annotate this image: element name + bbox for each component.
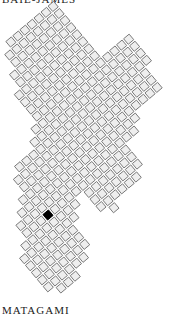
map-tile[interactable] xyxy=(146,75,156,85)
map-tile[interactable] xyxy=(48,1,58,11)
map-tile[interactable] xyxy=(90,123,100,133)
map-tile[interactable] xyxy=(43,138,53,148)
map-tile[interactable] xyxy=(75,147,85,157)
map-tile[interactable] xyxy=(51,47,61,57)
map-tile[interactable] xyxy=(39,33,49,43)
map-tile[interactable] xyxy=(65,107,75,117)
map-tile[interactable] xyxy=(98,176,108,186)
map-tile[interactable] xyxy=(13,175,23,185)
map-tile[interactable] xyxy=(30,209,40,219)
map-tile[interactable] xyxy=(111,105,121,115)
map-tile[interactable] xyxy=(12,44,22,54)
map-tile[interactable] xyxy=(50,132,60,142)
map-tile[interactable] xyxy=(115,138,125,148)
map-tile[interactable] xyxy=(64,264,74,274)
map-tile[interactable] xyxy=(69,140,79,150)
map-tile[interactable] xyxy=(38,46,48,56)
map-tile[interactable] xyxy=(30,137,40,147)
map-tile[interactable] xyxy=(34,13,44,23)
map-tile[interactable] xyxy=(45,40,55,50)
map-tile[interactable] xyxy=(46,99,56,109)
map-tile[interactable] xyxy=(31,124,41,134)
map-tile[interactable] xyxy=(98,104,108,114)
map-tile[interactable] xyxy=(87,149,97,159)
map-tile[interactable] xyxy=(40,164,50,174)
map-tile[interactable] xyxy=(55,152,65,162)
map-tile[interactable] xyxy=(38,262,48,272)
map-tile[interactable] xyxy=(52,178,62,188)
map-tile[interactable] xyxy=(59,28,69,38)
map-tile[interactable] xyxy=(18,195,28,205)
map-tile[interactable] xyxy=(22,71,32,81)
map-tile[interactable] xyxy=(32,39,42,49)
map-tile[interactable] xyxy=(95,58,105,68)
map-tile[interactable] xyxy=(112,92,122,102)
map-tile[interactable] xyxy=(103,196,113,206)
map-tile[interactable] xyxy=(133,74,143,84)
map-tile[interactable] xyxy=(78,180,88,190)
map-tile[interactable] xyxy=(58,257,68,267)
map-tile[interactable] xyxy=(11,57,21,67)
map-tile[interactable] xyxy=(114,66,124,76)
map-tile[interactable] xyxy=(119,86,129,96)
map-tile[interactable] xyxy=(71,258,81,268)
map-tile[interactable] xyxy=(69,212,79,222)
map-tile[interactable] xyxy=(15,77,25,87)
map-tile[interactable] xyxy=(141,55,151,65)
map-tile[interactable] xyxy=(20,169,30,179)
map-tile[interactable] xyxy=(44,53,54,63)
map-tile[interactable] xyxy=(72,30,82,40)
map-tile[interactable] xyxy=(126,152,136,162)
map-tile[interactable] xyxy=(5,50,15,60)
map-tile[interactable] xyxy=(50,276,60,286)
map-tile[interactable] xyxy=(52,106,62,116)
map-tile[interactable] xyxy=(17,208,27,218)
map-tile[interactable] xyxy=(67,81,77,91)
map-tile[interactable] xyxy=(140,68,150,78)
map-tile[interactable] xyxy=(68,225,78,235)
map-tile[interactable] xyxy=(36,144,46,154)
map-tile[interactable] xyxy=(77,50,87,60)
map-tile[interactable] xyxy=(95,143,105,153)
map-tile[interactable] xyxy=(70,199,80,209)
map-tile[interactable] xyxy=(22,156,32,166)
selected-tile[interactable] xyxy=(43,210,53,220)
map-tile[interactable] xyxy=(62,218,72,228)
map-tile[interactable] xyxy=(51,263,61,273)
map-tile[interactable] xyxy=(27,248,37,258)
map-tile[interactable] xyxy=(93,84,103,94)
map-tile[interactable] xyxy=(138,94,148,104)
map-tile[interactable] xyxy=(9,70,19,80)
map-tile[interactable] xyxy=(58,41,68,51)
map-tile[interactable] xyxy=(36,216,46,226)
map-tile[interactable] xyxy=(38,118,48,128)
map-tile[interactable] xyxy=(120,145,130,155)
map-tile[interactable] xyxy=(62,61,72,71)
map-tile[interactable] xyxy=(44,269,54,279)
map-tile[interactable] xyxy=(106,85,116,95)
map-tile[interactable] xyxy=(49,60,59,70)
map-tile[interactable] xyxy=(24,58,34,68)
map-tile[interactable] xyxy=(132,159,142,169)
map-tile[interactable] xyxy=(68,68,78,78)
map-tile[interactable] xyxy=(20,25,30,35)
map-tile[interactable] xyxy=(60,244,70,254)
map-tile[interactable] xyxy=(20,254,30,264)
map-tile[interactable] xyxy=(87,77,97,87)
map-tile[interactable] xyxy=(38,190,48,200)
map-tile[interactable] xyxy=(118,99,128,109)
map-tile[interactable] xyxy=(56,283,66,293)
map-tile[interactable] xyxy=(37,275,47,285)
map-tile[interactable] xyxy=(47,86,57,96)
map-tile[interactable] xyxy=(51,119,61,129)
map-tile[interactable] xyxy=(113,79,123,89)
map-tile[interactable] xyxy=(66,23,76,33)
map-tile[interactable] xyxy=(64,192,74,202)
map-tile[interactable] xyxy=(132,87,142,97)
map-tile[interactable] xyxy=(48,73,58,83)
map-tile[interactable] xyxy=(45,256,55,266)
map-tile[interactable] xyxy=(46,171,56,181)
map-tile[interactable] xyxy=(110,118,120,128)
map-tile[interactable] xyxy=(25,45,35,55)
map-tile[interactable] xyxy=(72,101,82,111)
